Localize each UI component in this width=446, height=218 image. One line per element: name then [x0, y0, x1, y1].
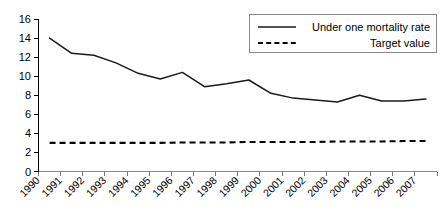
y-tick-label: 16 — [19, 13, 31, 25]
x-tick-label: 1994 — [105, 174, 130, 199]
y-tick-label: 12 — [19, 51, 31, 63]
x-tick-label: 1998 — [194, 174, 219, 199]
y-tick-label: 10 — [19, 70, 31, 82]
y-tick-label: 2 — [25, 146, 31, 158]
x-tick-label: 1993 — [83, 174, 108, 199]
x-tick-label: 1999 — [216, 174, 241, 199]
x-tick-label: 2003 — [305, 174, 330, 199]
y-tick-label: 4 — [25, 127, 31, 139]
x-tick-label: 2001 — [260, 174, 285, 199]
x-tick-label: 2006 — [371, 174, 396, 199]
x-tick-labels: 1990199119921993199419951996199719981999… — [17, 174, 418, 199]
y-tick-label: 0 — [25, 166, 31, 178]
x-tick-label: 1995 — [128, 174, 153, 199]
x-tick-label: 2005 — [349, 174, 374, 199]
x-tick-label: 1997 — [172, 174, 197, 199]
y-axis: 0246810121416 — [19, 13, 39, 178]
chart-legend: Under one mortality rateTarget value — [250, 15, 437, 53]
x-tick-label: 2002 — [283, 174, 308, 199]
x-tick-label: 1996 — [150, 174, 175, 199]
y-tick-label: 14 — [19, 32, 31, 44]
x-tick-label: 2007 — [393, 174, 418, 199]
legend-label: Target value — [370, 37, 430, 49]
line-chart: 0246810121416 19901991199219931994199519… — [0, 0, 446, 218]
x-tick-label: 1990 — [17, 174, 42, 199]
y-tick-label: 6 — [25, 108, 31, 120]
y-tick-labels: 0246810121416 — [19, 13, 31, 178]
x-axis: 1990199119921993199419951996199719981999… — [17, 172, 437, 199]
x-tick-label: 1992 — [61, 174, 86, 199]
x-tick-label: 2004 — [327, 174, 352, 199]
y-tick-marks — [34, 19, 39, 172]
y-tick-label: 8 — [25, 89, 31, 101]
x-tick-label: 2000 — [238, 174, 263, 199]
x-tick-label: 1991 — [39, 174, 64, 199]
chart-canvas: 0246810121416 19901991199219931994199519… — [0, 0, 446, 218]
data-series-group — [50, 38, 426, 143]
legend-label: Under one mortality rate — [312, 21, 430, 33]
series-line-1 — [50, 141, 426, 143]
